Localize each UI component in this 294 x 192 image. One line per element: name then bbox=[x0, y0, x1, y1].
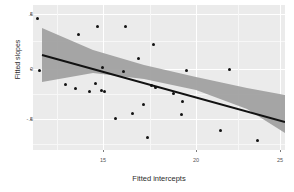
data-point bbox=[38, 69, 41, 72]
data-point bbox=[142, 103, 145, 106]
y-axis-label: Fitted slopes bbox=[14, 5, 21, 115]
data-point bbox=[137, 57, 140, 60]
data-point bbox=[131, 112, 134, 115]
data-point bbox=[64, 83, 67, 86]
xtick-label: 25 bbox=[272, 157, 288, 163]
data-point bbox=[77, 33, 80, 36]
data-point bbox=[88, 90, 91, 93]
data-point bbox=[74, 87, 77, 90]
data-point bbox=[180, 113, 183, 116]
fit-overlay bbox=[33, 5, 285, 150]
xtick-mark bbox=[280, 150, 281, 152]
xtick-mark bbox=[103, 150, 104, 152]
data-point bbox=[219, 129, 222, 132]
data-point bbox=[146, 136, 149, 139]
data-point bbox=[154, 86, 157, 89]
data-point bbox=[122, 70, 125, 73]
data-point bbox=[185, 69, 188, 72]
data-point bbox=[181, 100, 184, 103]
data-point bbox=[114, 117, 117, 120]
x-axis-label: Fitted intercepts bbox=[33, 174, 285, 183]
ytick-label: -.5 bbox=[17, 116, 33, 122]
data-point bbox=[101, 66, 104, 69]
xtick-label: 15 bbox=[95, 157, 111, 163]
data-point bbox=[150, 84, 153, 87]
xtick-mark bbox=[196, 150, 197, 152]
data-point bbox=[228, 68, 231, 71]
data-point bbox=[103, 90, 106, 93]
data-point bbox=[94, 82, 97, 85]
data-point bbox=[256, 139, 259, 142]
data-point bbox=[152, 43, 155, 46]
scatter-plot: .5 0 -.5 15 20 25 Fitted slopes Fitted i… bbox=[0, 0, 294, 192]
data-point bbox=[124, 25, 127, 28]
plot-panel bbox=[33, 5, 285, 150]
data-point bbox=[172, 92, 175, 95]
data-point bbox=[96, 25, 99, 28]
xtick-label: 20 bbox=[188, 157, 204, 163]
confidence-band bbox=[42, 28, 285, 133]
data-point bbox=[36, 17, 39, 20]
